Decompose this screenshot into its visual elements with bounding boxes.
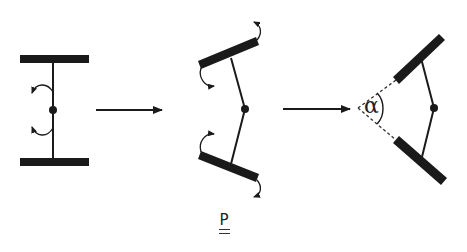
hinge-dot (49, 106, 57, 114)
bottom-plate (198, 151, 259, 182)
stage-2-bending (198, 22, 260, 197)
top-plate (20, 55, 89, 63)
bottom-label: P (214, 212, 234, 234)
rotation-arrow-icon-top-right (254, 22, 260, 40)
rotation-arrow-icon-bottom-right (254, 180, 260, 197)
top-plate (393, 34, 445, 84)
rotation-arrow-icon-bottom-left (200, 134, 214, 152)
hinge-dot (430, 104, 438, 112)
hinge-dot (241, 105, 249, 113)
rotation-arrow-icon-upper (32, 85, 53, 93)
rotation-arrow-icon-lower (32, 127, 53, 135)
double-underline (219, 229, 230, 234)
bottom-plate (393, 136, 447, 185)
angle-label: α (364, 94, 379, 118)
bottom-label-text: P (219, 211, 228, 229)
bottom-plate (20, 158, 89, 166)
stage-1-straight (20, 55, 89, 166)
rotation-arrow-icon-top-left (200, 68, 214, 86)
top-plate (198, 37, 259, 69)
